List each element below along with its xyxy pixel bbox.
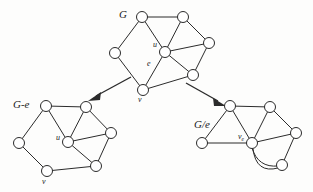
edge-e-label: e [147,59,151,68]
node-gce-b [265,102,276,113]
node-ge-u [63,137,74,148]
node-ge-f [91,161,102,172]
graph-operations-figure: G u e v [0,0,313,192]
vertex-u-left-label: u [56,133,60,142]
graph-g-slash-e-label: G/e [194,118,210,130]
edge-u-d [165,43,209,52]
node-gce-c [197,138,208,149]
edge-ge-a-b [46,106,86,107]
node-g-u [160,47,171,58]
edge-ge-a-c [19,106,46,143]
node-ge-d [106,128,117,139]
node-g-c [110,48,121,59]
vertex-ve-label: ve [238,132,245,142]
vertex-v-label: v [138,95,142,104]
graph-g-minus-e-nodes [14,101,117,177]
node-g-v [138,85,149,96]
node-gce-d [291,128,302,139]
graph-g-minus-e-label: G-e [13,98,30,110]
graph-g-label: G [119,8,127,20]
arrow-left-head [88,92,101,101]
node-g-a [137,12,148,23]
edge-ge-f-v [47,166,96,171]
node-ge-a [41,101,52,112]
node-ge-v [42,166,53,177]
vertex-v-left-label: v [42,177,46,186]
node-gce-f [277,160,288,171]
vertex-u-label: u [153,40,157,49]
graph-g-minus-e: G-e u v [13,98,117,186]
edge-ge-u-d [68,133,111,142]
node-g-d [204,38,215,49]
node-ge-c [14,138,25,149]
arrow-to-g-slash-e [186,83,226,106]
node-g-b [178,12,189,23]
edge-gce-ve-d [252,133,296,143]
graph-g-slash-e: G/e ve [194,101,302,171]
edge-gce-b-ve [252,107,270,143]
edge-a-c [115,17,142,53]
node-gce-ve [247,138,258,149]
figure-canvas: G u e v [0,0,313,192]
node-ge-b [81,102,92,113]
graph-g-nodes [110,12,215,96]
edge-gce-a-b [230,106,270,107]
vertex-ve-subscript: e [242,136,245,142]
arrow-left-shaft [96,77,131,96]
node-gce-a [225,101,236,112]
edge-gce-ve-f-upper [252,148,278,166]
edge-c-v [115,53,143,90]
node-g-f [188,70,199,81]
arrow-to-g-minus-e [88,77,131,101]
